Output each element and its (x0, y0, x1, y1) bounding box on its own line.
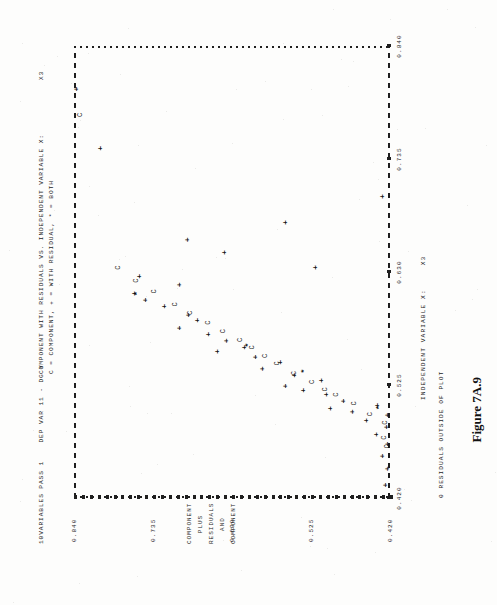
scan-speckle (128, 28, 129, 29)
data-point: + (299, 388, 306, 393)
data-point: C (77, 113, 84, 117)
y-tick (319, 495, 322, 499)
scan-speckle (311, 89, 312, 90)
scan-speckle (80, 120, 81, 121)
scan-speckle (138, 145, 139, 146)
printout-footer-note: 0 RESIDUALS OUTSIDE OF PLOT (438, 371, 445, 498)
scan-speckle (310, 546, 311, 547)
y-tick (374, 495, 377, 499)
data-point: + (259, 366, 266, 371)
data-point: + (213, 349, 220, 354)
scan-speckle (283, 43, 284, 44)
y-tick (137, 495, 140, 499)
data-point: + (72, 87, 79, 92)
y-tick (106, 495, 109, 499)
y-tick (264, 495, 267, 499)
data-point: + (281, 220, 288, 225)
scanned-page: 10VARIABLES PASS 1 DEP VAR 11 - DG Y COM… (0, 0, 497, 605)
y-tick (351, 495, 354, 499)
scan-speckle (71, 83, 72, 84)
scan-speckle (325, 457, 326, 458)
scan-speckle (177, 288, 178, 289)
printout-title: COMPONENT WITH RESIDUALS VS. INDEPENDENT… (38, 134, 45, 374)
data-point: C (322, 387, 329, 391)
data-point: * (132, 291, 139, 296)
y-tick (153, 495, 156, 499)
scan-speckle (275, 424, 276, 425)
data-point: * (299, 369, 306, 374)
scan-speckle (146, 296, 147, 297)
y-tick (145, 495, 148, 499)
data-point: + (317, 378, 324, 383)
y-caption-line: COMPONENT (228, 504, 239, 544)
scan-speckle (150, 342, 151, 343)
y-tick (185, 495, 188, 499)
y-axis-caption: COMPONENT PLUS RESIDUALSANDCOMPONENT (184, 504, 239, 544)
x-tick-label: 0.840 (396, 34, 403, 58)
y-tick (240, 495, 243, 499)
data-point: + (194, 318, 201, 323)
scan-speckle (379, 241, 380, 242)
y-tick (335, 495, 338, 499)
y-tick-label: 0.840 (71, 518, 78, 542)
data-point: C (381, 421, 388, 425)
y-tick (382, 495, 385, 499)
scan-speckle (265, 81, 266, 82)
y-tick (200, 495, 203, 499)
scan-speckle (216, 257, 217, 258)
x-tick-label: 0.630 (396, 260, 403, 284)
scan-speckle (341, 59, 342, 60)
y-tick (177, 495, 180, 499)
scan-speckle (495, 472, 496, 473)
scan-speckle (332, 277, 333, 278)
y-tick (366, 495, 369, 499)
y-tick (287, 495, 290, 499)
scan-speckle (281, 312, 282, 313)
y-caption-line: AND (217, 504, 228, 544)
y-tick (74, 495, 77, 499)
scan-speckle (415, 406, 416, 407)
data-point: C (380, 436, 387, 440)
data-point: + (323, 392, 330, 397)
data-point: C (150, 289, 157, 293)
scan-speckle (477, 289, 478, 290)
y-tick (343, 495, 346, 499)
scan-speckle (147, 413, 148, 414)
data-point: + (176, 283, 183, 288)
data-point: C (171, 302, 178, 306)
data-point: + (383, 425, 390, 430)
scan-speckle (467, 205, 468, 206)
data-point: + (383, 467, 390, 472)
data-point: C (262, 354, 269, 358)
data-point: C (186, 311, 193, 315)
data-point: + (281, 384, 288, 389)
scan-speckle (223, 540, 224, 541)
x-tick-label: 0.735 (396, 147, 403, 171)
scan-speckle (125, 256, 126, 257)
y-tick (248, 495, 251, 499)
scan-speckle (411, 500, 412, 501)
scan-speckle (66, 431, 67, 432)
data-point: + (340, 399, 347, 404)
printout-run-header: 10VARIABLES PASS 1 DEP VAR 11 - DG Y (38, 364, 45, 544)
scan-speckle (9, 250, 10, 251)
scan-speckle (373, 162, 374, 163)
y-tick (303, 495, 306, 499)
x-tick-label: 0.420 (396, 486, 403, 510)
data-point: C (367, 412, 374, 416)
scan-speckle (277, 229, 278, 230)
scan-speckle (359, 199, 360, 200)
scan-speckle (327, 548, 328, 549)
y-tick (390, 495, 393, 499)
scan-speckle (322, 115, 323, 116)
data-point: + (378, 454, 385, 459)
x-tick (387, 270, 391, 273)
data-point: + (142, 298, 149, 303)
scan-speckle (353, 61, 354, 62)
scan-speckle (137, 576, 138, 577)
scan-speckle (54, 210, 55, 211)
scan-speckle (57, 56, 58, 57)
data-point: + (383, 413, 390, 418)
y-tick (208, 495, 211, 499)
data-point: + (349, 410, 356, 415)
